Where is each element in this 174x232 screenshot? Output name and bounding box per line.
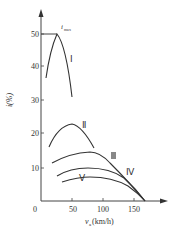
curve-II	[49, 124, 94, 148]
x-tick-labels: 0 50 100 150	[33, 205, 140, 214]
x-tick-0: 0	[33, 205, 37, 214]
y-tick-20: 20	[31, 129, 39, 138]
label-curve-IV: Ⅳ	[126, 167, 135, 177]
curve-V	[62, 177, 145, 201]
y-tick-30: 30	[31, 96, 39, 105]
svg-text:i: i	[61, 23, 63, 31]
y-tick-10: 10	[31, 164, 39, 173]
y-axis-label: i(%)	[5, 93, 14, 108]
label-curve-II: Ⅱ	[82, 120, 86, 130]
svg-text:max: max	[64, 27, 71, 32]
curve-I	[46, 34, 72, 97]
y-axis-arrow-icon	[39, 9, 44, 17]
label-curve-V: Ⅴ	[79, 173, 86, 183]
label-curve-III-marker	[111, 152, 116, 159]
x-tick-150: 150	[128, 205, 140, 214]
imax-label: i max	[61, 23, 71, 32]
x-tick-100: 100	[97, 205, 109, 214]
y-tick-50: 50	[31, 30, 39, 39]
x-axis-label: v a (km/h)	[85, 217, 114, 227]
y-tick-40: 40	[31, 62, 39, 71]
x-tick-50: 50	[69, 205, 77, 214]
axes	[41, 14, 163, 201]
y-tick-labels: 50 40 30 20 10	[31, 30, 39, 173]
grade-speed-chart: 50 40 30 20 10 0 50 100 150 i(%) v a (km…	[0, 0, 174, 232]
label-curve-I: Ⅰ	[70, 54, 73, 64]
x-axis-arrow-icon	[160, 199, 168, 204]
curve-labels: Ⅰ Ⅱ Ⅳ Ⅴ	[70, 54, 135, 183]
svg-text:(km/h): (km/h)	[92, 217, 114, 226]
